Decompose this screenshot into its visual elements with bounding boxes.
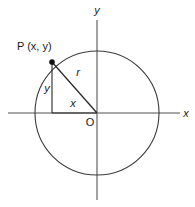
point-p-label: P (x, y) <box>17 40 52 52</box>
y-axis-label: y <box>93 4 101 16</box>
radius-label: r <box>76 66 81 78</box>
x-axis-label: x <box>182 107 189 119</box>
coordinate-circle-diagram: P (x, y) r y x O x y <box>0 0 195 207</box>
figure-container: P (x, y) r y x O x y <box>0 0 195 207</box>
point-p-marker <box>49 59 54 64</box>
vertical-leg-label: y <box>43 82 51 94</box>
horizontal-leg-label: x <box>69 97 76 109</box>
origin-label: O <box>86 116 95 128</box>
